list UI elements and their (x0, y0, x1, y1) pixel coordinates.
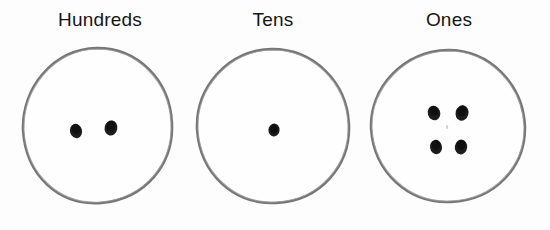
worksheet-canvas: Hundreds Tens (0, 0, 550, 230)
ones-circle-svg (0, 0, 550, 230)
